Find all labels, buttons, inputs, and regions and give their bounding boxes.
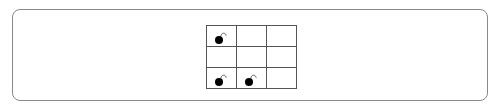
grid-cell-r0-c2[interactable]: [267, 26, 297, 47]
grid-cell-r1-c1[interactable]: [237, 47, 267, 68]
grid-cell-r1-c2[interactable]: [267, 47, 297, 68]
grid-cell-r0-c0[interactable]: [207, 26, 237, 47]
grid-cell-r2-c1[interactable]: [237, 68, 267, 89]
bomb-icon: [214, 30, 228, 44]
game-grid: [206, 25, 297, 89]
grid-cell-r2-c2[interactable]: [267, 68, 297, 89]
bomb-icon: [214, 72, 228, 86]
grid-cell-r1-c0[interactable]: [207, 47, 237, 68]
bomb-icon: [244, 72, 258, 86]
grid-cell-r2-c0[interactable]: [207, 68, 237, 89]
grid-cell-r0-c1[interactable]: [237, 26, 267, 47]
